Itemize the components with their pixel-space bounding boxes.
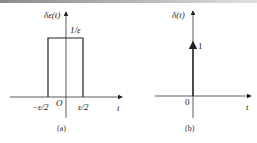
x-tick-right: ε/2 xyxy=(78,102,89,112)
origin-label-b: 0 xyxy=(185,97,190,107)
origin-label-a: O xyxy=(56,98,63,108)
y-label-a: δε(t) xyxy=(44,10,60,20)
caption-a: (a) xyxy=(57,124,66,133)
x-tick-left: −ε/2 xyxy=(32,102,49,112)
diagram-canvas: δε(t) 1/ε −ε/2 O ε/2 t (a) δ(t) 1 0 t (b… xyxy=(0,0,257,143)
rectangular-pulse xyxy=(48,38,83,97)
panel-a: δε(t) 1/ε −ε/2 O ε/2 t (a) xyxy=(10,10,122,133)
caption-b: (b) xyxy=(185,124,195,133)
y-label-b: δ(t) xyxy=(172,10,185,20)
x-axis-label-a: t xyxy=(117,103,120,113)
impulse-label: 1 xyxy=(198,41,203,51)
panel-b: δ(t) 1 0 t (b) xyxy=(155,10,251,133)
x-axis-label-b: t xyxy=(246,102,249,112)
height-label: 1/ε xyxy=(70,25,81,35)
